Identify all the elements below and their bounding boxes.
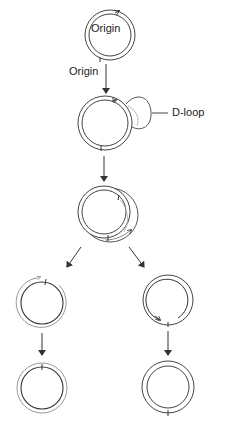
arrow-right-split [129,247,144,267]
dloop-label: D-loop [172,107,204,118]
elongation-circle [78,186,138,242]
parent-circle [85,10,135,62]
origin-label-inner: Origin [91,23,120,34]
daughter-right-circle [143,275,193,327]
dloop-circle [78,96,168,151]
final-right-circle [142,361,194,416]
origin-label-outer: Origin [69,66,98,77]
replication-diagram [0,0,229,435]
daughter-left-circle [16,277,66,327]
final-left-circle [17,363,67,413]
arrow-left-split [67,247,81,267]
